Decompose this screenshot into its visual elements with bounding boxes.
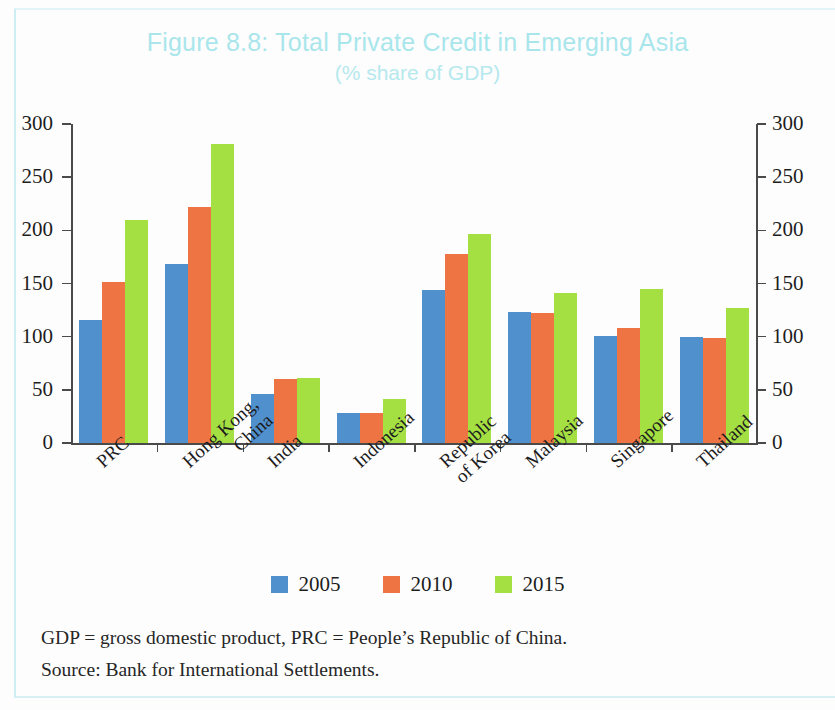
y-axis-tick-label-right: 200 bbox=[772, 219, 832, 240]
x-axis-tick-mark bbox=[328, 444, 330, 452]
legend-label: 2010 bbox=[411, 572, 453, 597]
bar bbox=[508, 312, 531, 443]
bar bbox=[125, 220, 148, 443]
legend-swatch-icon bbox=[495, 576, 512, 593]
bar bbox=[165, 264, 188, 443]
bars-container bbox=[71, 124, 757, 443]
y-axis-tick-label-left: 300 bbox=[0, 113, 53, 134]
abbreviations-note: GDP = gross domestic product, PRC = Peop… bbox=[41, 622, 801, 654]
y-tick-mark-left bbox=[62, 123, 71, 125]
y-axis-tick-label-right: 250 bbox=[772, 166, 832, 187]
legend-item[interactable]: 2010 bbox=[383, 572, 453, 597]
figure-page: Figure 8.8: Total Private Credit in Emer… bbox=[0, 0, 835, 710]
y-axis-tick-label-right: 150 bbox=[772, 273, 832, 294]
y-tick-mark-right bbox=[757, 123, 766, 125]
y-axis-tick-label-right: 0 bbox=[772, 432, 832, 453]
y-tick-mark-left bbox=[62, 176, 71, 178]
bar bbox=[531, 313, 554, 443]
y-axis-tick-label-left: 150 bbox=[0, 273, 53, 294]
y-axis-tick-label-right: 50 bbox=[772, 379, 832, 400]
y-tick-mark-left bbox=[62, 389, 71, 391]
bar bbox=[79, 320, 102, 443]
bar bbox=[422, 290, 445, 443]
bar bbox=[211, 144, 234, 443]
legend-item[interactable]: 2005 bbox=[271, 572, 341, 597]
legend-label: 2005 bbox=[299, 572, 341, 597]
x-axis-tick-mark bbox=[157, 444, 159, 452]
x-axis-tick-mark bbox=[586, 444, 588, 452]
bar-group bbox=[414, 124, 500, 443]
y-axis-tick-label-left: 200 bbox=[0, 219, 53, 240]
y-axis-tick-label-right: 100 bbox=[772, 326, 832, 347]
y-tick-mark-right bbox=[757, 283, 766, 285]
y-axis-tick-label-left: 0 bbox=[0, 432, 53, 453]
bar-group bbox=[586, 124, 672, 443]
chart-legend: 200520102015 bbox=[0, 572, 835, 597]
figure-notes: GDP = gross domestic product, PRC = Peop… bbox=[41, 622, 801, 685]
bar bbox=[188, 207, 211, 443]
legend-item[interactable]: 2015 bbox=[495, 572, 565, 597]
bar-group bbox=[157, 124, 243, 443]
bar bbox=[102, 282, 125, 443]
y-tick-mark-left bbox=[62, 230, 71, 232]
y-axis-tick-label-left: 100 bbox=[0, 326, 53, 347]
bar bbox=[594, 336, 617, 443]
chart-plot: 300250200150100500 300250200150100500 PR… bbox=[0, 0, 835, 710]
bar bbox=[445, 254, 468, 443]
bar-group bbox=[243, 124, 329, 443]
legend-label: 2015 bbox=[523, 572, 565, 597]
y-tick-mark-right bbox=[757, 176, 766, 178]
bar-group bbox=[671, 124, 757, 443]
y-tick-mark-right bbox=[757, 230, 766, 232]
legend-swatch-icon bbox=[383, 576, 400, 593]
x-axis-tick-mark bbox=[414, 444, 416, 452]
y-axis-tick-label-left: 250 bbox=[0, 166, 53, 187]
bar bbox=[297, 378, 320, 443]
x-axis-tick-mark bbox=[671, 444, 673, 452]
bar-group bbox=[500, 124, 586, 443]
y-tick-mark-right bbox=[757, 389, 766, 391]
y-tick-mark-left bbox=[62, 283, 71, 285]
bar-group bbox=[71, 124, 157, 443]
y-axis-tick-label-left: 50 bbox=[0, 379, 53, 400]
y-tick-mark-left bbox=[62, 442, 71, 444]
bar bbox=[680, 337, 703, 443]
legend-swatch-icon bbox=[271, 576, 288, 593]
bar bbox=[337, 413, 360, 443]
y-axis-tick-label-right: 300 bbox=[772, 113, 832, 134]
bar-group bbox=[328, 124, 414, 443]
y-tick-mark-right bbox=[757, 336, 766, 338]
source-note: Source: Bank for International Settlemen… bbox=[41, 654, 801, 686]
bar bbox=[617, 328, 640, 443]
y-tick-mark-left bbox=[62, 336, 71, 338]
y-tick-mark-right bbox=[757, 442, 766, 444]
